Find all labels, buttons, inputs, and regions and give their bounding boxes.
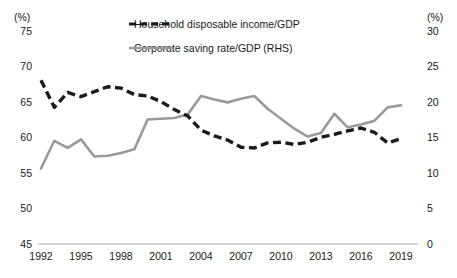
plot-area [0, 0, 457, 278]
chart-container: (%) (%) 75 70 65 60 55 50 45 30 25 20 15… [0, 0, 457, 278]
series-line-household [41, 80, 401, 148]
